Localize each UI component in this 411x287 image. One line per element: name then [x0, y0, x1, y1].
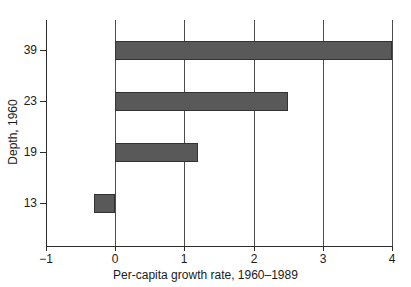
- y-tick-mark-2: [40, 152, 46, 153]
- x-tick-mark-5: [392, 247, 393, 251]
- x-tick-mark-1: [115, 247, 116, 251]
- x-tick-label-4: 3: [320, 252, 327, 266]
- x-tick-label-3: 2: [251, 252, 258, 266]
- y-tick-label-2: 19: [24, 145, 37, 159]
- bar-13: [94, 194, 115, 213]
- x-tick-label-2: 1: [181, 252, 188, 266]
- x-tick-label-1: 0: [112, 252, 119, 266]
- x-tick-mark-2: [184, 247, 185, 251]
- y-tick-label-3: 13: [24, 196, 37, 210]
- bar-23: [115, 92, 288, 111]
- y-tick-label-1: 23: [24, 94, 37, 108]
- y-tick-mark-1: [40, 101, 46, 102]
- bar-19: [115, 143, 198, 162]
- x-tick-label-0: −1: [39, 252, 53, 266]
- x-tick-label-5: 4: [389, 252, 396, 266]
- x-axis-spine: [46, 246, 393, 247]
- x-tick-mark-4: [323, 247, 324, 251]
- x-axis-title: Per-capita growth rate, 1960–1989: [0, 268, 411, 282]
- y-axis-title: Depth, 1960: [6, 72, 20, 192]
- y-tick-mark-3: [40, 203, 46, 204]
- y-tick-mark-0: [40, 50, 46, 51]
- y-tick-label-0: 39: [24, 43, 37, 57]
- gridline-x-5: [392, 20, 393, 246]
- x-tick-mark-3: [254, 247, 255, 251]
- bar-39: [115, 41, 392, 60]
- bar-chart: −101234 39231913 Per-capita growth rate,…: [0, 0, 411, 287]
- x-tick-mark-0: [46, 247, 47, 251]
